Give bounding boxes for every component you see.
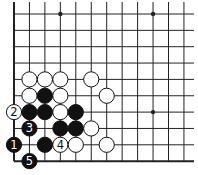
black-stone-1: 1 <box>6 137 21 152</box>
black-stone <box>37 137 52 152</box>
white-stone <box>22 72 37 87</box>
white-stone-4: 4 <box>53 137 68 152</box>
white-stone <box>22 88 37 103</box>
white-stone <box>37 72 52 87</box>
white-stone <box>84 121 99 136</box>
white-stone <box>53 105 68 120</box>
black-stone-3: 3 <box>22 121 37 136</box>
star-point <box>151 110 155 114</box>
white-stone <box>68 137 83 152</box>
white-stone <box>53 72 68 87</box>
white-stone-2: 2 <box>6 105 21 120</box>
move-number: 2 <box>10 105 17 119</box>
black-stone <box>68 105 83 120</box>
white-stone <box>53 88 68 103</box>
go-board: 23145 <box>0 0 198 175</box>
black-stone <box>68 121 83 136</box>
star-point <box>151 12 155 16</box>
move-number: 1 <box>10 138 17 152</box>
move-number: 3 <box>26 121 33 135</box>
black-stone <box>53 121 68 136</box>
white-stone <box>99 88 114 103</box>
black-stone <box>37 88 52 103</box>
black-stone-5: 5 <box>22 154 37 169</box>
star-point <box>58 12 62 16</box>
black-stone <box>22 105 37 120</box>
black-stone <box>37 105 52 120</box>
white-stone <box>99 137 114 152</box>
move-number: 5 <box>26 154 33 168</box>
move-number: 4 <box>57 138 64 152</box>
white-stone <box>84 72 99 87</box>
